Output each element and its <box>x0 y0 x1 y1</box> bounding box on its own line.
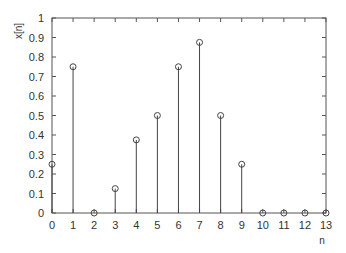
stem <box>197 39 203 213</box>
data-stems <box>49 39 329 216</box>
stem <box>239 161 245 213</box>
y-tick-label: 0.2 <box>29 168 44 180</box>
plot-frame <box>52 18 326 213</box>
y-tick-label: 0.1 <box>29 188 44 200</box>
y-tick-label: 0.4 <box>29 129 44 141</box>
x-tick-label: 5 <box>154 219 160 231</box>
x-tick-label: 8 <box>218 219 224 231</box>
x-tick-label: 6 <box>175 219 181 231</box>
x-tick-label: 1 <box>70 219 76 231</box>
stem <box>70 64 76 213</box>
stem-plot: 00.10.20.30.40.50.60.70.80.91 0123456789… <box>0 0 346 253</box>
x-tick-label: 9 <box>239 219 245 231</box>
y-axis-label: x[n] <box>13 23 24 39</box>
x-tick-label: 10 <box>257 219 269 231</box>
x-tick-label: 13 <box>320 219 332 231</box>
y-tick-label: 0.6 <box>29 90 44 102</box>
y-tick-label: 0.5 <box>29 110 44 122</box>
y-tick-label: 0.9 <box>29 32 44 44</box>
y-tick-label: 0.8 <box>29 51 44 63</box>
y-tick-label: 0.7 <box>29 71 44 83</box>
stem <box>133 137 139 213</box>
x-tick-label: 11 <box>278 219 289 231</box>
stem <box>175 64 181 213</box>
x-tick-label: 0 <box>49 219 55 231</box>
x-tick-label: 7 <box>196 219 202 231</box>
y-tick-label: 0 <box>38 207 44 219</box>
x-axis-ticks: 012345678910111213 <box>49 18 332 231</box>
stem <box>112 186 118 213</box>
y-tick-label: 0.3 <box>29 149 44 161</box>
x-axis-label: n <box>319 235 325 246</box>
stem <box>49 161 55 213</box>
stem <box>218 113 224 214</box>
x-tick-label: 4 <box>133 219 139 231</box>
y-tick-label: 1 <box>38 12 44 24</box>
stem <box>154 113 160 214</box>
x-tick-label: 2 <box>91 219 97 231</box>
x-tick-label: 12 <box>299 219 311 231</box>
x-tick-label: 3 <box>112 219 118 231</box>
